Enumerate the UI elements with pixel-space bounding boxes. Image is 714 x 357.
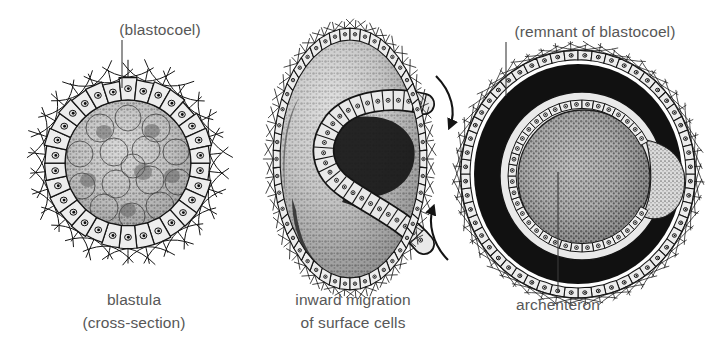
inward-migration-caption: inward migration [295,291,410,309]
blastocoel-label: (blastocoel) [119,21,200,39]
archenteron-label: archenteron [516,296,600,314]
blastula-caption: blastula [107,291,161,309]
panel-archenteron-gastrula [452,41,704,306]
remnant-of-blastocoel-label: (remnant of blastocoel) [515,23,676,41]
inward-migration-caption-sub: of surface cells [301,314,406,332]
gastrulation-figure: (blastocoel) blastula (cross-section) in… [0,0,714,357]
blastula-caption-sub: (cross-section) [82,314,185,332]
